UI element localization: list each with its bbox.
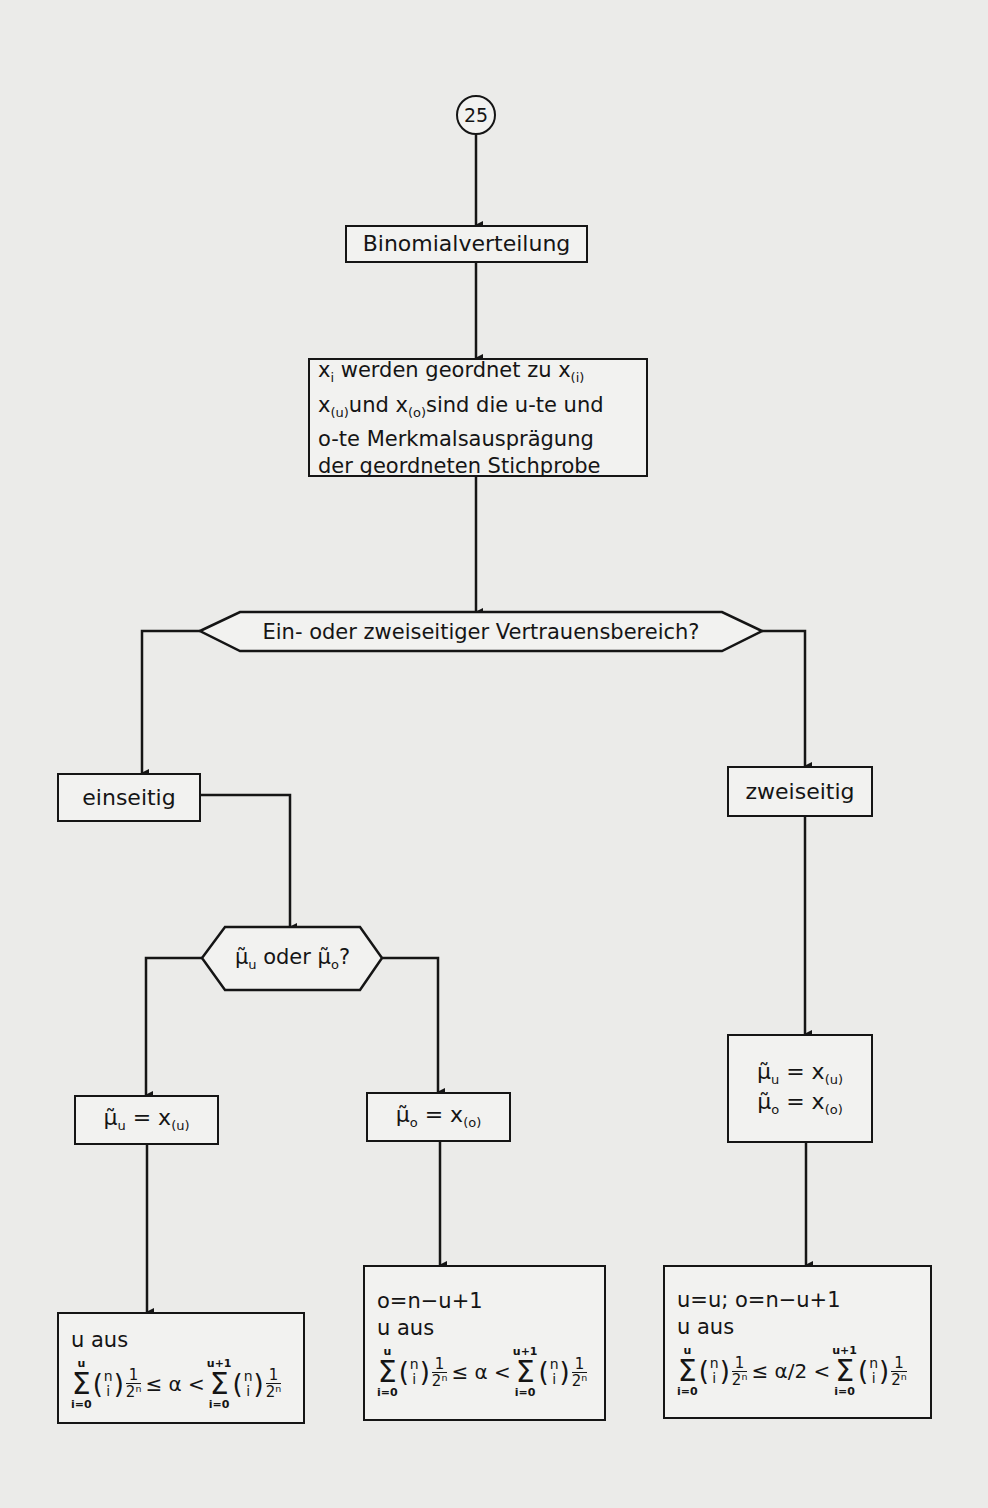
result-lower-line-1: u aus — [71, 1327, 128, 1354]
upper-bound-box: μ̃o = x(o) — [366, 1092, 511, 1142]
two-sided-box: zweiseitig — [727, 766, 873, 817]
result-lower-box: u aus uΣi=0 (ni) 12ⁿ ≤ α < u+1Σi=0 (ni) … — [57, 1312, 305, 1424]
decision-sides: Ein- oder zweiseitiger Vertrauensbereich… — [240, 612, 722, 651]
result-upper-line-0: o=n−u+1 — [377, 1288, 483, 1315]
decision-sides-label: Ein- oder zweiseitiger Vertrauensbereich… — [262, 620, 699, 644]
sort-box: xi werden geordnet zu x(i) x(u)und x(o)s… — [308, 358, 648, 477]
result-both-box: u=u; o=n−u+1 u aus uΣi=0 (ni) 12ⁿ ≤ α/2 … — [663, 1265, 932, 1419]
result-both-line-1: u aus — [677, 1314, 734, 1341]
connector-label: 25 — [464, 104, 488, 126]
both-bounds-line-2: μ̃o = x(o) — [757, 1089, 843, 1118]
result-both-formula: uΣi=0 (ni) 12ⁿ ≤ α/2 < u+1Σi=0 (ni) 12ⁿ — [677, 1345, 909, 1397]
sort-line-1: xi werden geordnet zu x(i) — [318, 357, 646, 391]
binomial-box: Binomialverteilung — [345, 225, 588, 263]
connector-25: 25 — [456, 95, 496, 135]
result-both-line-0: u=u; o=n−u+1 — [677, 1287, 841, 1314]
upper-bound-label: μ̃o = x(o) — [396, 1102, 482, 1131]
decision-bound: μ̃u oder μ̃o? — [225, 927, 360, 990]
result-upper-line-1: u aus — [377, 1315, 434, 1342]
result-lower-formula: uΣi=0 (ni) 12ⁿ ≤ α < u+1Σi=0 (ni) 12ⁿ — [71, 1358, 283, 1410]
decision-bound-label: μ̃u oder μ̃o? — [235, 945, 350, 972]
lower-bound-box: μ̃u = x(u) — [74, 1095, 219, 1145]
binomial-label: Binomialverteilung — [363, 231, 571, 256]
result-upper-box: o=n−u+1 u aus uΣi=0 (ni) 12ⁿ ≤ α < u+1Σi… — [363, 1265, 606, 1421]
one-sided-box: einseitig — [57, 773, 201, 822]
one-sided-label: einseitig — [82, 785, 175, 810]
both-bounds-line-1: μ̃u = x(u) — [757, 1059, 843, 1088]
sort-line-2: x(u)und x(o)sind die u-te und — [318, 392, 646, 426]
sort-line-4: der geordneten Stichprobe — [318, 453, 646, 480]
two-sided-label: zweiseitig — [745, 779, 854, 804]
lower-bound-label: μ̃u = x(u) — [103, 1105, 189, 1134]
sort-line-3: o-te Merkmalsausprägung — [318, 426, 646, 453]
both-bounds-box: μ̃u = x(u) μ̃o = x(o) — [727, 1034, 873, 1143]
result-upper-formula: uΣi=0 (ni) 12ⁿ ≤ α < u+1Σi=0 (ni) 12ⁿ — [377, 1346, 589, 1398]
